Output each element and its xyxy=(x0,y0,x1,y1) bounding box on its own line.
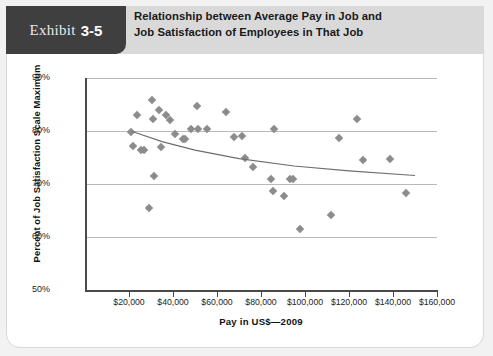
plot-area xyxy=(85,78,437,290)
data-point xyxy=(240,153,248,161)
y-axis-tick-label: 60% xyxy=(10,231,50,241)
x-axis-tick-label: $120,000 xyxy=(324,297,374,307)
data-point xyxy=(267,175,275,183)
data-point xyxy=(359,155,367,163)
data-point xyxy=(222,108,230,116)
x-axis-tick-label: $40,000 xyxy=(148,297,198,307)
y-axis-line xyxy=(85,78,87,291)
data-point xyxy=(145,204,153,212)
scatter-chart: Percent of Job Satisfaction Scale Maximu… xyxy=(0,54,493,356)
x-axis-tick-label: $160,000 xyxy=(412,297,462,307)
x-axis-tick-label: $60,000 xyxy=(192,297,242,307)
gridline xyxy=(85,237,437,238)
y-axis-tick-label: 90% xyxy=(10,72,50,82)
gridline xyxy=(85,131,437,132)
data-point xyxy=(270,125,278,133)
data-point xyxy=(335,134,343,142)
x-axis-tick-label: $20,000 xyxy=(104,297,154,307)
data-point xyxy=(269,187,277,195)
x-axis-tick-label: $100,000 xyxy=(280,297,330,307)
y-axis-tick-label: 70% xyxy=(10,178,50,188)
y-axis-tick-label: 80% xyxy=(10,125,50,135)
data-point xyxy=(127,128,135,136)
data-point xyxy=(280,192,288,200)
data-point xyxy=(132,111,140,119)
data-point xyxy=(402,189,410,197)
data-point xyxy=(150,172,158,180)
data-point xyxy=(327,211,335,219)
x-axis-tick-label: $140,000 xyxy=(368,297,418,307)
x-axis-label: Pay in US$—2009 xyxy=(85,316,437,327)
data-point xyxy=(149,115,157,123)
exhibit-title-line-1: Relationship between Average Pay in Job … xyxy=(134,9,464,25)
data-point xyxy=(238,132,246,140)
data-point xyxy=(295,225,303,233)
data-point xyxy=(352,115,360,123)
exhibit-page: Exhibit 3-5 Relationship between Average… xyxy=(0,0,493,356)
y-axis-tick-label: 50% xyxy=(10,284,50,294)
data-point xyxy=(203,125,211,133)
data-point xyxy=(154,106,162,114)
exhibit-word: Exhibit xyxy=(30,22,76,39)
data-point xyxy=(193,102,201,110)
exhibit-label-tag: Exhibit 3-5 xyxy=(6,6,126,54)
data-point xyxy=(249,162,257,170)
data-point xyxy=(157,143,165,151)
data-point xyxy=(385,155,393,163)
exhibit-title-line-2: Job Satisfaction of Employees in That Jo… xyxy=(134,25,464,41)
x-axis-tick-label: $80,000 xyxy=(236,297,286,307)
gridline xyxy=(85,184,437,185)
gridline xyxy=(85,78,437,79)
exhibit-number: 3-5 xyxy=(81,22,103,39)
exhibit-title: Relationship between Average Pay in Job … xyxy=(134,9,464,40)
data-point xyxy=(148,96,156,104)
data-point xyxy=(229,133,237,141)
